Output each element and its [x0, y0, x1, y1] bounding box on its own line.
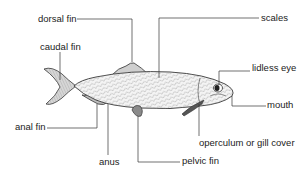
label-mouth: mouth: [267, 100, 293, 110]
label-scales: scales: [261, 13, 288, 23]
label-operculum: operculum or gill cover: [199, 138, 295, 148]
label-anal-fin: anal fin: [15, 122, 46, 132]
fish-diagram: dorsal fin scales caudal fin lidless eye…: [0, 0, 307, 171]
pelvic-fin-shape: [132, 106, 142, 117]
label-lidless-eye: lidless eye: [252, 63, 296, 73]
label-anus: anus: [99, 157, 120, 167]
label-dorsal-fin: dorsal fin: [38, 14, 77, 24]
label-caudal-fin: caudal fin: [40, 42, 81, 52]
eye-shape: [214, 84, 223, 92]
label-pelvic-fin: pelvic fin: [182, 156, 219, 166]
